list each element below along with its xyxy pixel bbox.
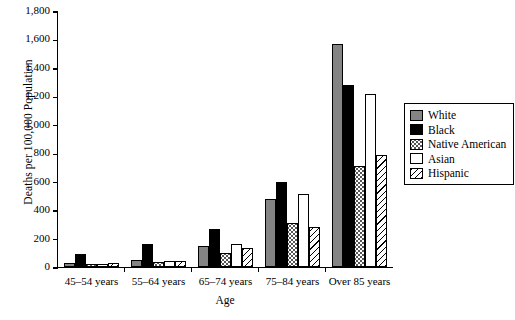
legend-item: Black bbox=[410, 124, 506, 136]
legend-item: Hispanic bbox=[410, 167, 506, 179]
x-tick-label: Over 85 years bbox=[329, 275, 391, 287]
legend-swatch-asian bbox=[410, 153, 423, 164]
bar-hispanic bbox=[175, 261, 186, 267]
bar-asian bbox=[365, 94, 376, 268]
bar-native-american bbox=[354, 166, 365, 267]
bar-group: 45–54 years bbox=[58, 12, 125, 267]
bar-group: 65–74 years bbox=[192, 12, 259, 267]
legend-label: Black bbox=[428, 124, 455, 136]
y-tick-label: 200 bbox=[34, 232, 51, 244]
x-tick-mark bbox=[191, 267, 192, 272]
bar-native-american bbox=[220, 253, 231, 267]
legend-label: White bbox=[428, 109, 456, 121]
y-tick-label: 800 bbox=[34, 146, 51, 158]
bar-groups: 45–54 years55–64 years65–74 years75–84 y… bbox=[58, 12, 393, 267]
y-tick-label: 0 bbox=[45, 260, 51, 272]
bar-black bbox=[75, 254, 86, 267]
bar-black bbox=[343, 85, 354, 267]
bar-native-american bbox=[287, 223, 298, 267]
bar-native-american bbox=[153, 262, 164, 267]
bar-white bbox=[332, 44, 343, 267]
x-tick-mark bbox=[258, 267, 259, 272]
y-tick-label: 1,000 bbox=[25, 118, 50, 130]
bar-asian bbox=[164, 261, 175, 267]
legend-label: Hispanic bbox=[428, 167, 469, 179]
legend-swatch-black bbox=[410, 124, 423, 135]
legend-swatch-white bbox=[410, 110, 423, 121]
y-tick-label: 1,400 bbox=[25, 61, 50, 73]
bar-asian bbox=[231, 244, 242, 267]
x-tick-mark bbox=[124, 267, 125, 272]
bar-asian bbox=[97, 264, 108, 267]
x-tick-label: 55–64 years bbox=[132, 275, 185, 287]
bar-hispanic bbox=[376, 155, 387, 267]
legend-label: Asian bbox=[428, 153, 455, 165]
bar-hispanic bbox=[242, 248, 253, 267]
bar-black bbox=[209, 229, 220, 267]
legend-swatch-native-american bbox=[410, 139, 423, 150]
x-tick-label: 75–84 years bbox=[266, 275, 319, 287]
bar-asian bbox=[298, 194, 309, 267]
plot-area: 02004006008001,0001,2001,4001,6001,800 4… bbox=[57, 12, 393, 268]
legend-item: White bbox=[410, 109, 506, 121]
legend-item: Asian bbox=[410, 153, 506, 165]
bar-group: Over 85 years bbox=[326, 12, 393, 267]
x-axis-label: Age bbox=[57, 294, 393, 306]
bar-hispanic bbox=[108, 263, 119, 267]
y-tick-mark bbox=[53, 267, 58, 268]
bar-white bbox=[64, 263, 75, 267]
bar-hispanic bbox=[309, 227, 320, 267]
bar-black bbox=[276, 182, 287, 267]
y-tick-label: 600 bbox=[34, 175, 51, 187]
bar-chart: Deaths per 100,000 Population 0200400600… bbox=[0, 0, 515, 320]
bar-black bbox=[142, 244, 153, 267]
y-axis-label: Deaths per 100,000 Population bbox=[22, 12, 34, 252]
bar-group: 75–84 years bbox=[259, 12, 326, 267]
legend: WhiteBlackNative AmericanAsianHispanic bbox=[404, 103, 514, 185]
bar-white bbox=[198, 246, 209, 267]
y-tick-label: 1,200 bbox=[25, 89, 50, 101]
y-tick-label: 400 bbox=[34, 203, 51, 215]
x-tick-label: 65–74 years bbox=[199, 275, 252, 287]
bar-white bbox=[131, 260, 142, 267]
y-tick-label: 1,600 bbox=[25, 32, 50, 44]
legend-swatch-hispanic bbox=[410, 168, 423, 179]
x-tick-mark bbox=[325, 267, 326, 272]
legend-label: Native American bbox=[428, 138, 506, 150]
y-tick-label: 1,800 bbox=[25, 4, 50, 16]
x-tick-label: 45–54 years bbox=[65, 275, 118, 287]
legend-item: Native American bbox=[410, 138, 506, 150]
bar-group: 55–64 years bbox=[125, 12, 192, 267]
bar-white bbox=[265, 199, 276, 267]
bar-native-american bbox=[86, 264, 97, 267]
